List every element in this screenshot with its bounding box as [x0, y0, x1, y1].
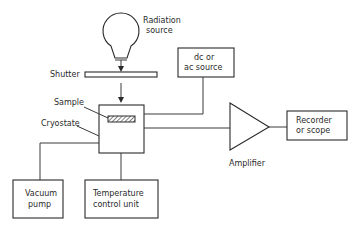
cryostat-leader-line	[77, 126, 99, 136]
shutter-bar	[85, 72, 157, 77]
vacuum-pump-box	[13, 180, 63, 218]
vacuum-pump-label-line1: Vacuum	[25, 189, 57, 198]
recorder-label-line1: Recorder	[296, 116, 333, 125]
cryostat-box	[99, 105, 144, 153]
radiation-source-label-line2: source	[146, 26, 173, 35]
sample-hatched	[108, 116, 135, 122]
vacuum-pump-label-line2: pump	[28, 200, 51, 209]
dc-ac-source-label-line1: dc or	[194, 53, 215, 62]
radiation-source-bulb-icon	[103, 13, 139, 60]
line-source-to-cryostat	[144, 77, 203, 114]
apparatus-diagram: Radiation source Shutter Sample Cryostat…	[0, 0, 355, 229]
radiation-source-label-line1: Radiation	[143, 16, 181, 25]
dc-ac-source-label-line2: ac source	[184, 63, 222, 72]
temperature-control-box	[85, 180, 158, 218]
amplifier-label: Amplifier	[229, 159, 266, 168]
temperature-control-label-line1: Temperature	[92, 189, 144, 198]
cryostat-label: Cryostate	[41, 119, 80, 128]
sample-label: Sample	[54, 98, 84, 107]
line-cryostat-to-vacuum	[40, 143, 99, 180]
temperature-control-label-line2: control unit	[93, 200, 139, 209]
shutter-label: Shutter	[50, 70, 80, 79]
amplifier-triangle-icon	[230, 103, 269, 150]
recorder-label-line2: or scope	[296, 126, 330, 135]
